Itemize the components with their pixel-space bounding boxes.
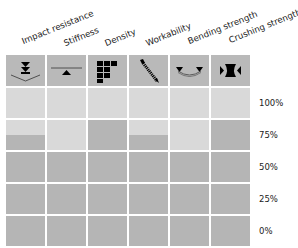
cell-bending-25: [170, 184, 209, 214]
cell-workability-75: [129, 120, 168, 150]
row-label-75: 75%: [259, 130, 278, 140]
cell-bending-50: [170, 152, 209, 182]
cell-stiffness-75: [47, 120, 86, 150]
cell-impact-75: [6, 120, 45, 150]
impact-resistance-icon-cell: [6, 55, 45, 86]
crushing-icon: [211, 55, 250, 86]
cell-density-25: [88, 184, 127, 214]
impact-icon: [6, 55, 45, 86]
row-label-100: 100%: [259, 98, 283, 108]
density-icon-cell: [88, 55, 127, 86]
cell-workability-0: [129, 216, 168, 246]
cell-bending-75: [170, 120, 209, 150]
cell-crushing-50: [211, 152, 250, 182]
column-label-stiffness: Stiffness: [62, 25, 100, 48]
cell-impact-0: [6, 216, 45, 246]
bending-icon: [170, 55, 209, 86]
workability-icon: [129, 55, 168, 86]
cell-workability-50: [129, 152, 168, 182]
stiffness-icon: [47, 55, 86, 86]
cell-stiffness-25: [47, 184, 86, 214]
cell-impact-50: [6, 152, 45, 182]
cell-bending-100: [170, 88, 209, 118]
column-label-workability: Workability: [144, 21, 192, 48]
cell-impact-100: [6, 88, 45, 118]
cell-stiffness-50: [47, 152, 86, 182]
cell-stiffness-100: [47, 88, 86, 118]
bending-strength-icon-cell: [170, 55, 209, 86]
cell-stiffness-0: [47, 216, 86, 246]
cell-impact-25: [6, 184, 45, 214]
cell-crushing-25: [211, 184, 250, 214]
cell-density-0: [88, 216, 127, 246]
column-label-density: Density: [103, 26, 137, 48]
cell-density-100: [88, 88, 127, 118]
row-label-50: 50%: [259, 162, 278, 172]
row-label-25: 25%: [259, 194, 278, 204]
cell-density-50: [88, 152, 127, 182]
cell-bending-0: [170, 216, 209, 246]
workability-icon-cell: [129, 55, 168, 86]
stiffness-icon-cell: [47, 55, 86, 86]
cell-crushing-100: [211, 88, 250, 118]
cell-crushing-0: [211, 216, 250, 246]
crushing-strength-icon-cell: [211, 55, 250, 86]
row-label-0: 0%: [259, 226, 273, 236]
cell-workability-25: [129, 184, 168, 214]
cell-crushing-75: [211, 120, 250, 150]
cell-workability-100: [129, 88, 168, 118]
density-icon: [88, 55, 127, 86]
cell-density-75: [88, 120, 127, 150]
